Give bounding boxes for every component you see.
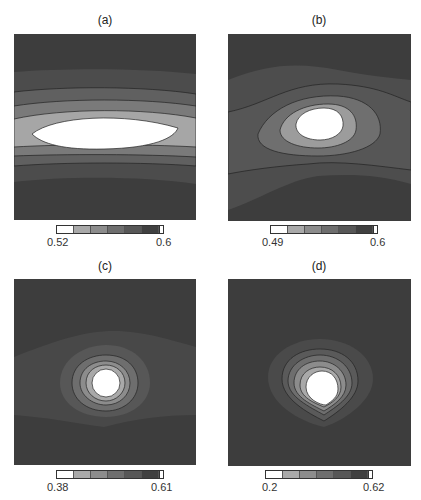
colorbar-b [270,225,378,234]
colorbar-c-max-label: 0.61 [151,481,172,493]
colorbar-swatch [125,226,142,233]
colorbar-d [265,470,373,479]
colorbar-swatch [91,471,108,478]
colorbar-end [368,471,372,478]
panel-c-title: (c) [75,259,135,273]
colorbar-swatch [300,471,317,478]
colorbar-b-min-label: 0.49 [262,236,283,248]
panel-d-title: (d) [289,259,349,273]
colorbar-swatch [351,471,368,478]
colorbar-d-min-label: 0.2 [262,481,277,493]
colorbar-swatch [266,471,283,478]
colorbar-a [56,225,164,234]
colorbar-swatch [108,226,125,233]
contour-plot-d [228,279,411,466]
colorbar-end [159,226,163,233]
colorbar-swatch [74,226,91,233]
colorbar-swatch [288,226,305,233]
colorbar-swatch [142,471,159,478]
contour-plot-b [228,34,411,221]
panel-b-title: (b) [289,13,349,27]
colorbar-a-min-label: 0.52 [47,236,68,248]
colorbar-swatch [305,226,322,233]
panel-a-title: (a) [75,13,135,27]
colorbar-end [159,471,163,478]
colorbar-swatch [322,226,339,233]
colorbar-b-max-label: 0.6 [370,236,385,248]
colorbar-swatch [339,226,356,233]
colorbar-a-max-label: 0.6 [156,236,171,248]
colorbar-swatch [334,471,351,478]
colorbar-c-min-label: 0.38 [47,481,68,493]
colorbar-swatch [74,471,91,478]
colorbar-swatch [125,471,142,478]
colorbar-swatch [271,226,288,233]
colorbar-swatch [57,226,74,233]
colorbar-swatch [57,471,74,478]
colorbar-end [373,226,377,233]
colorbar-swatch [108,471,125,478]
colorbar-swatch [283,471,300,478]
colorbar-d-max-label: 0.62 [363,481,384,493]
contour-plot-a [14,34,196,220]
colorbar-swatch [91,226,108,233]
colorbar-swatch [142,226,159,233]
colorbar-swatch [356,226,373,233]
colorbar-c [56,470,164,479]
contour-plot-c [14,279,196,465]
colorbar-swatch [317,471,334,478]
